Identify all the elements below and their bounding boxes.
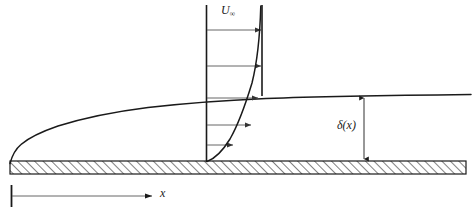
velocity-profile-curve [207,6,261,162]
diagram-canvas [0,0,472,213]
velocity-profile-arrows [207,30,261,145]
boundary-layer-edge-curve [10,94,471,163]
plate-hatched-body [10,161,466,174]
freestream-velocity-label: U∞ [221,3,235,18]
flat-plate [10,161,466,174]
boundary-layer-thickness-label: δ(x) [337,118,356,133]
streamwise-axis-label: x [160,186,165,201]
boundary-layer-figure: U∞ δ(x) x [0,0,472,213]
